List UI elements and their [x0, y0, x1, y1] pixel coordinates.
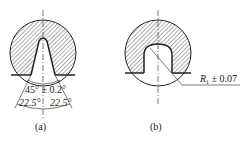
label-half-angle-left: 22.5°: [19, 97, 41, 108]
diagram-canvas: 45° ± 0.2° 22.5° 22.5° (a) R1 ± 0.07 (b): [0, 0, 247, 146]
label-included-angle: 45° ± 0.2°: [25, 84, 66, 95]
caption-b: (b): [150, 121, 162, 133]
figure-b: [124, 10, 240, 105]
label-radius: R1 ± 0.07: [199, 73, 237, 85]
label-half-angle-right: 22.5°: [50, 97, 72, 108]
caption-a: (a): [35, 121, 46, 133]
